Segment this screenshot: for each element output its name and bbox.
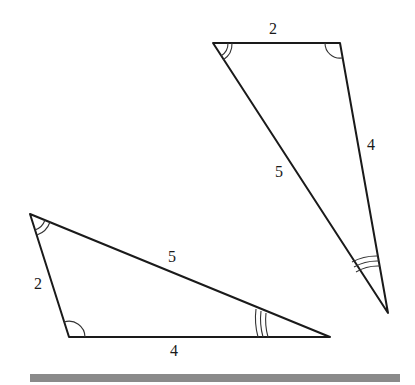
triple-angle-mark bbox=[255, 309, 258, 337]
side-label-diagonal: 5 bbox=[168, 248, 176, 265]
upper-triangle: 2 4 5 bbox=[213, 20, 388, 313]
side-label-left: 2 bbox=[34, 275, 42, 292]
upper-triangle-outline bbox=[213, 43, 388, 313]
side-label-top: 2 bbox=[269, 20, 277, 37]
triangle-diagram: 2 4 5 2 4 5 bbox=[0, 0, 415, 385]
triple-angle-mark bbox=[266, 313, 268, 337]
lower-triangle-outline bbox=[30, 214, 330, 337]
triple-angle-mark bbox=[261, 311, 263, 337]
side-label-bottom: 4 bbox=[170, 342, 178, 359]
bottom-divider-bar bbox=[30, 374, 400, 382]
side-label-diagonal: 5 bbox=[275, 163, 283, 180]
double-angle-mark bbox=[221, 43, 228, 56]
double-angle-mark bbox=[35, 220, 45, 230]
side-label-right: 4 bbox=[367, 136, 375, 153]
lower-triangle: 2 4 5 bbox=[30, 214, 330, 359]
